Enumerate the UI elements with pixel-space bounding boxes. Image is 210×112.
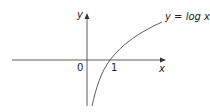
log-curve [92, 22, 162, 106]
y-axis-label: y [77, 10, 83, 20]
curve-equation-label: y = log x [165, 12, 210, 22]
x-axis-arrow [160, 58, 166, 63]
y-axis-arrow [85, 13, 90, 19]
origin-label: 0 [77, 63, 83, 73]
x-axis-label: x [159, 64, 165, 74]
tick-label-1: 1 [111, 63, 117, 73]
